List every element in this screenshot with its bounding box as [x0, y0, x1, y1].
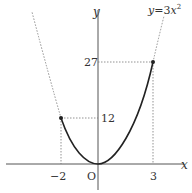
x-axis-label: x	[181, 158, 188, 172]
origin-label: O	[87, 170, 96, 183]
point-right	[151, 60, 155, 64]
point-left	[59, 116, 63, 120]
parabola-extension-right	[153, 16, 164, 62]
x-tick-3: 3	[150, 170, 157, 183]
parabola-extension-left	[32, 12, 61, 118]
y-tick-27: 27	[84, 56, 98, 69]
parabola-diagram: y x O −2 3 12 27 y=3x2	[0, 0, 192, 193]
y-axis-label: y	[92, 5, 100, 19]
y-tick-12: 12	[101, 112, 115, 125]
function-label: y=3x2	[147, 3, 181, 17]
x-tick-neg2: −2	[50, 170, 66, 183]
